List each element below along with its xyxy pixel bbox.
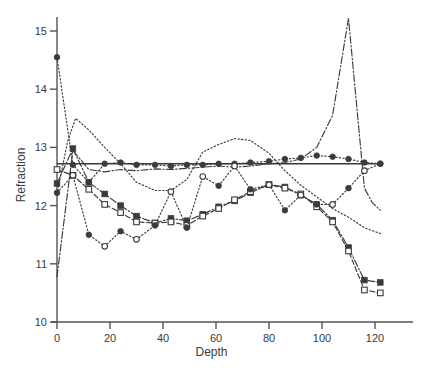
x-axis-title: Depth <box>0 345 423 359</box>
marker-open-square <box>330 219 336 225</box>
x-tick-label-100: 100 <box>313 332 331 344</box>
marker-filled-circle <box>118 160 124 166</box>
x-tick-label-120: 120 <box>366 332 384 344</box>
marker-open-circle <box>266 182 272 188</box>
marker-filled-circle <box>248 160 254 166</box>
marker-open-square <box>216 206 222 212</box>
marker-open-square <box>232 197 238 203</box>
marker-open-square <box>102 202 108 208</box>
marker-filled-circle <box>54 54 60 60</box>
marker-filled-circle <box>266 159 272 165</box>
marker-filled-circle <box>118 228 124 234</box>
marker-open-square <box>54 167 60 173</box>
y-tick-label-15: 15 <box>35 25 47 37</box>
marker-open-circle <box>232 163 238 169</box>
marker-open-square <box>168 219 174 225</box>
marker-filled-circle <box>330 154 336 160</box>
chart-plot-area: 101112131415020406080100120 <box>0 0 423 374</box>
marker-open-square <box>282 185 288 191</box>
marker-open-square <box>134 219 140 225</box>
x-tick-label-60: 60 <box>210 332 222 344</box>
marker-open-square <box>346 248 352 254</box>
series-line-4 <box>57 149 380 283</box>
marker-filled-circle <box>346 185 352 191</box>
marker-open-circle <box>330 202 336 208</box>
marker-filled-square <box>70 146 76 152</box>
x-tick-label-0: 0 <box>54 332 60 344</box>
marker-filled-circle <box>184 162 190 168</box>
marker-open-circle <box>102 244 108 250</box>
marker-filled-circle <box>362 160 368 166</box>
y-tick-label-14: 14 <box>35 83 47 95</box>
marker-filled-circle <box>216 183 222 189</box>
marker-open-square <box>118 210 124 216</box>
chart-figure: 101112131415020406080100120 Refraction D… <box>0 0 423 374</box>
marker-filled-square <box>86 180 92 186</box>
marker-filled-circle <box>86 232 92 238</box>
y-tick-label-13: 13 <box>35 141 47 153</box>
marker-filled-circle <box>216 161 222 167</box>
y-tick-label-12: 12 <box>35 200 47 212</box>
marker-open-circle <box>70 173 76 179</box>
series-line-3 <box>57 118 380 233</box>
marker-open-circle <box>200 174 206 180</box>
marker-open-square <box>362 287 368 293</box>
marker-open-square <box>200 213 206 219</box>
marker-filled-circle <box>248 187 254 193</box>
marker-filled-circle <box>282 207 288 213</box>
marker-filled-square <box>102 191 108 197</box>
marker-filled-square <box>118 203 124 209</box>
marker-filled-circle <box>70 162 76 168</box>
x-tick-label-80: 80 <box>263 332 275 344</box>
marker-filled-square <box>54 181 60 187</box>
marker-filled-circle <box>102 161 108 167</box>
x-tick-label-40: 40 <box>157 332 169 344</box>
marker-filled-circle <box>378 161 384 167</box>
marker-filled-circle <box>168 163 174 169</box>
marker-filled-circle <box>184 225 190 231</box>
marker-filled-square <box>362 277 368 283</box>
y-axis-title: Refraction <box>14 130 28 220</box>
marker-filled-square <box>378 280 384 286</box>
y-tick-label-11: 11 <box>36 258 47 270</box>
marker-filled-circle <box>200 162 206 168</box>
marker-filled-circle <box>314 153 320 159</box>
marker-open-circle <box>134 237 140 243</box>
marker-filled-circle <box>152 223 158 229</box>
marker-open-circle <box>168 189 174 195</box>
marker-filled-square <box>134 213 140 219</box>
marker-filled-circle <box>54 190 60 196</box>
y-tick-label-10: 10 <box>35 316 47 328</box>
marker-open-circle <box>362 168 368 174</box>
marker-open-circle <box>298 192 304 198</box>
marker-filled-circle <box>134 162 140 168</box>
marker-filled-circle <box>346 156 352 162</box>
marker-filled-circle <box>152 162 158 168</box>
marker-filled-circle <box>282 156 288 162</box>
marker-open-square <box>378 290 384 296</box>
marker-filled-circle <box>314 202 320 208</box>
marker-filled-circle <box>298 155 304 161</box>
x-tick-label-20: 20 <box>104 332 116 344</box>
marker-open-square <box>86 187 92 193</box>
